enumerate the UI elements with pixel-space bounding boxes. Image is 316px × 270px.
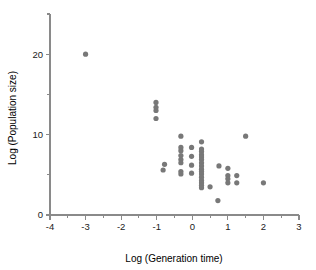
data-point bbox=[178, 134, 183, 139]
data-point bbox=[234, 180, 239, 185]
x-tick-label--2: -2 bbox=[117, 221, 125, 232]
x-tick-label--3: -3 bbox=[81, 221, 89, 232]
data-point bbox=[215, 198, 220, 203]
data-point bbox=[83, 52, 88, 57]
data-point bbox=[162, 162, 167, 167]
x-tick-label-2: 2 bbox=[261, 221, 266, 232]
data-point bbox=[225, 180, 230, 185]
x-tick-label-3: 3 bbox=[296, 221, 301, 232]
data-point bbox=[153, 116, 158, 121]
x-tick-label-0: 0 bbox=[190, 221, 195, 232]
data-point bbox=[189, 171, 194, 176]
y-axis-title: Log (Population size) bbox=[7, 71, 18, 165]
x-tick-label--1: -1 bbox=[152, 221, 160, 232]
data-point bbox=[153, 100, 158, 105]
y-tick-label-0: 0 bbox=[38, 209, 43, 220]
data-point bbox=[178, 148, 183, 153]
data-point bbox=[225, 166, 230, 171]
y-tick-label-20: 20 bbox=[32, 49, 43, 60]
data-point bbox=[216, 163, 221, 168]
data-point bbox=[189, 163, 194, 168]
data-point bbox=[243, 134, 248, 139]
data-point bbox=[189, 145, 194, 150]
data-point bbox=[153, 108, 158, 113]
scatter-plot-figure: 01020 -4-3-2-10123 Log (Generation time)… bbox=[0, 0, 316, 270]
chart-canvas: 01020 -4-3-2-10123 Log (Generation time)… bbox=[0, 0, 316, 270]
data-point bbox=[199, 139, 204, 144]
data-point bbox=[189, 154, 194, 159]
data-point bbox=[234, 173, 239, 178]
x-tick-label--4: -4 bbox=[46, 221, 54, 232]
data-point bbox=[261, 180, 266, 185]
data-point bbox=[199, 185, 204, 190]
data-point bbox=[178, 160, 183, 165]
data-point bbox=[161, 167, 166, 172]
y-tick-label-10: 10 bbox=[32, 129, 43, 140]
x-axis-title: Log (Generation time) bbox=[125, 253, 222, 264]
x-tick-label-1: 1 bbox=[225, 221, 230, 232]
data-point bbox=[178, 171, 183, 176]
data-point bbox=[207, 184, 212, 189]
